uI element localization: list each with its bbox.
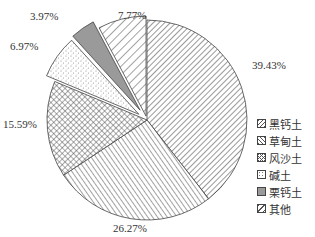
legend-item: 风沙土 (257, 149, 302, 166)
legend-item: 其他 (257, 200, 302, 217)
legend-label: 黑钙土 (269, 116, 302, 132)
pie-slices (47, 16, 247, 220)
legend-label: 碱土 (269, 167, 291, 183)
legend-label: 草甸土 (269, 133, 302, 149)
legend-item: 栗钙土 (257, 183, 302, 200)
legend-label: 风沙土 (269, 150, 302, 166)
dotted-swatch-icon (257, 170, 266, 179)
slice-percent-label: 26.27% (113, 222, 147, 234)
wide-diagonal-hatch-swatch-icon (257, 204, 266, 213)
legend-item: 碱土 (257, 166, 302, 183)
legend-item: 黑钙土 (257, 115, 302, 132)
diagonal-hatch-swatch-icon (257, 119, 266, 128)
crosshatch-swatch-icon (257, 153, 266, 162)
legend-item: 草甸土 (257, 132, 302, 149)
slice-percent-label: 3.97% (30, 10, 58, 22)
slice-percent-label: 7.77% (118, 9, 146, 21)
slice-percent-label: 6.97% (10, 40, 38, 52)
solid-gray-swatch-icon (257, 187, 266, 196)
back-diagonal-hatch-swatch-icon (257, 136, 266, 145)
chart-legend: 黑钙土 草甸土 风沙土 碱土 栗钙土 其他 (257, 115, 302, 217)
legend-label: 其他 (269, 201, 291, 217)
slice-percent-label: 39.43% (252, 59, 286, 71)
slice-percent-label: 15.59% (3, 118, 37, 130)
legend-label: 栗钙土 (269, 184, 302, 200)
